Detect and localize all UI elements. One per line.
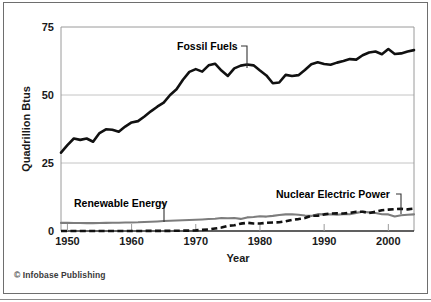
x-axis-title: Year (226, 252, 250, 264)
x-axis-tick-label: 1960 (119, 235, 143, 247)
plot-area-wrapper: 0255075 195019601970198019902000 Fossil … (0, 0, 431, 302)
series-renewable-energy (61, 212, 414, 223)
x-axis-tick-label: 1970 (184, 235, 208, 247)
annotation-nuclear-electric-power: Nuclear Electric Power (276, 188, 390, 200)
x-axis-tick-labels: 195019601970198019902000 (55, 235, 400, 247)
x-axis-tick-label: 1990 (312, 235, 336, 247)
x-axis-tick-label: 2000 (376, 235, 400, 247)
annotation-fossil-fuels: Fossil Fuels (177, 40, 238, 52)
x-axis-tick-label: 1950 (55, 235, 79, 247)
nuclear-electric-power-leader-line (396, 194, 401, 214)
series-nuclear-electric-power (61, 209, 414, 231)
y-axis-tick-label: 50 (42, 89, 54, 101)
y-axis-tick-labels: 0255075 (42, 21, 54, 237)
y-axis-tick-label: 75 (42, 21, 54, 33)
energy-consumption-line-chart: 0255075 195019601970198019902000 Fossil … (0, 0, 431, 302)
series-fossil-fuels (61, 49, 414, 153)
y-axis-tick-label: 25 (42, 157, 54, 169)
x-axis-tick-label: 1980 (248, 235, 272, 247)
y-axis-tick-label: 0 (48, 225, 54, 237)
y-axis-title: Quadrillion Btus (20, 86, 32, 172)
x-axis-ticks (67, 224, 388, 231)
annotation-renewable-energy: Renewable Energy (74, 197, 168, 209)
copyright-credit: © Infobase Publishing (14, 270, 105, 280)
chart-figure: 0255075 195019601970198019902000 Fossil … (0, 0, 431, 302)
bottom-rule (0, 299, 431, 300)
